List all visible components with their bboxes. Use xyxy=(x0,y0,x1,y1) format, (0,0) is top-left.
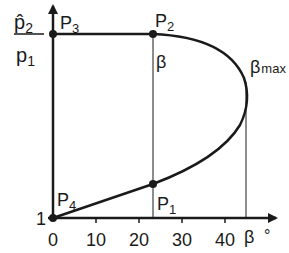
xlabel: β xyxy=(244,227,254,247)
x-tick-0: 0 xyxy=(48,230,58,250)
ylabel-denominator: p1 xyxy=(16,44,35,69)
label-p2: P2 xyxy=(155,11,174,34)
label-beta: β xyxy=(156,52,166,72)
label-p1: P1 xyxy=(157,194,176,217)
label-beta-max: βmax xyxy=(250,57,286,77)
x-tick-40: 40 xyxy=(215,230,235,250)
point-p2 xyxy=(149,30,157,38)
x-tick-10: 10 xyxy=(86,230,106,250)
point-p4 xyxy=(49,214,57,222)
diagram: p̂2 p1 1 P3 P2 P1 P4 β βmax 0 10 20 30 4… xyxy=(0,0,289,253)
point-p1 xyxy=(149,180,157,188)
x-tick-30: 30 xyxy=(172,230,192,250)
ylabel-numerator: p̂2 xyxy=(14,11,33,36)
x-tick-20: 20 xyxy=(129,230,149,250)
xunit: ° xyxy=(264,227,270,244)
curve xyxy=(53,34,247,218)
point-p3 xyxy=(49,30,57,38)
label-p3: P3 xyxy=(60,13,79,36)
y-origin-label: 1 xyxy=(36,209,46,229)
label-p4: P4 xyxy=(57,190,76,213)
